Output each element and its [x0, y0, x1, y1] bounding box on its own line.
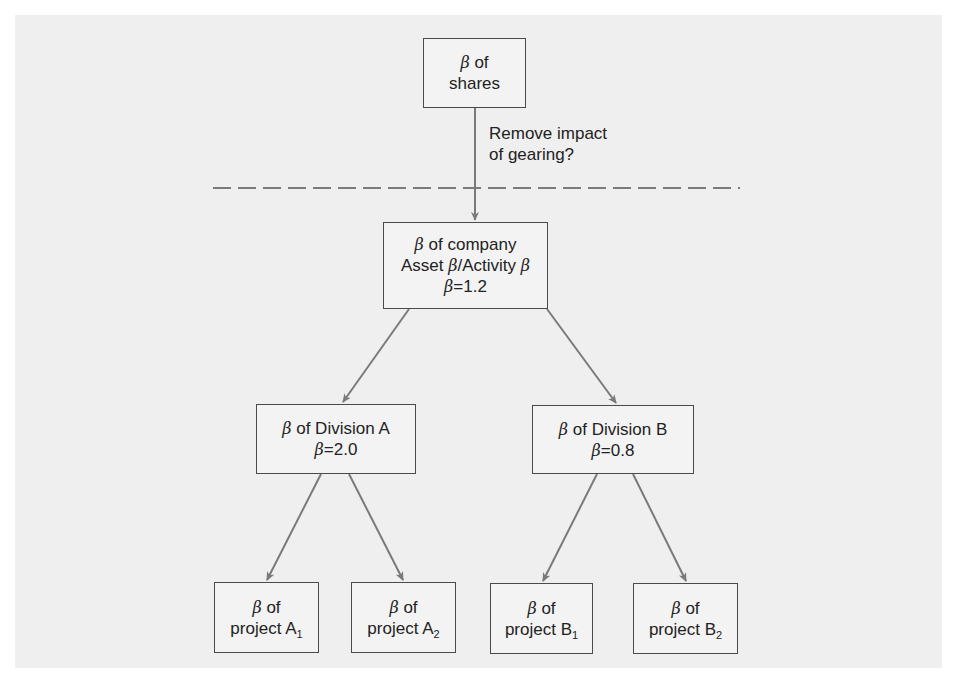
beta-symbol: β [521, 256, 530, 275]
node-text: of [681, 599, 700, 618]
node-text: of [537, 599, 556, 618]
arrow-division-b-to-project-b2 [633, 474, 686, 581]
node-line: β=2.0 [315, 439, 358, 460]
node-line: β of [527, 598, 555, 619]
subscript: 2 [716, 629, 722, 641]
beta-symbol: β [592, 441, 601, 460]
arrow-division-a-to-project-a1 [267, 474, 321, 580]
beta-symbol: β [559, 420, 568, 439]
edge-label-line: Remove impact [489, 123, 607, 144]
edge-label-line: of gearing? [489, 144, 607, 165]
node-line: β of [389, 597, 417, 618]
node-line: β of Division B [559, 419, 667, 440]
beta-symbol: β [415, 235, 424, 254]
node-text: of Division B [568, 420, 667, 439]
node-beta-of-company: β of company Asset β/Activity β β=1.2 [383, 222, 548, 309]
edge-label-remove-gearing: Remove impact of gearing? [489, 123, 607, 165]
beta-symbol: β [444, 277, 453, 296]
node-line: project A1 [230, 618, 302, 639]
node-line: β of [460, 52, 488, 73]
node-beta-of-project-b2: β of project B2 [633, 583, 738, 654]
node-beta-of-division-b: β of Division B β=0.8 [532, 405, 694, 474]
node-text: /Activity [457, 256, 520, 275]
node-line: Asset β/Activity β [401, 255, 530, 276]
beta-symbol: β [389, 598, 398, 617]
arrow-division-a-to-project-a2 [349, 474, 403, 580]
node-line: project B1 [505, 619, 578, 640]
node-beta-of-division-a: β of Division A β=2.0 [256, 404, 416, 474]
node-beta-of-project-a1: β of project A1 [214, 582, 319, 653]
node-text: project A [367, 619, 433, 638]
node-text: of [470, 53, 489, 72]
arrow-division-b-to-project-b1 [543, 474, 597, 581]
node-line: β of company [415, 234, 517, 255]
beta-value: =0.8 [601, 441, 635, 460]
beta-value: =1.2 [453, 277, 487, 296]
beta-value: =2.0 [324, 440, 358, 459]
node-text: shares [449, 74, 500, 93]
beta-symbol: β [252, 598, 261, 617]
beta-symbol: β [460, 53, 469, 72]
node-text: of [399, 598, 418, 617]
node-line: β of [252, 597, 280, 618]
node-text: of [262, 598, 281, 617]
subscript: 1 [572, 629, 578, 641]
node-text: of company [424, 235, 517, 254]
beta-symbol: β [671, 599, 680, 618]
node-line: β=1.2 [444, 276, 487, 297]
node-text: project B [649, 620, 716, 639]
node-text: project B [505, 620, 572, 639]
node-text: Asset [401, 256, 448, 275]
node-line: β=0.8 [592, 440, 635, 461]
node-line: shares [449, 73, 500, 94]
arrow-company-to-division-b [547, 309, 616, 403]
beta-symbol: β [527, 599, 536, 618]
node-text: of Division A [291, 419, 389, 438]
node-text: project A [230, 619, 296, 638]
node-beta-of-project-a2: β of project A2 [351, 582, 456, 653]
node-line: project A2 [367, 618, 439, 639]
node-beta-of-project-b1: β of project B1 [490, 583, 593, 654]
subscript: 1 [297, 628, 303, 640]
node-beta-of-shares: β of shares [423, 38, 526, 108]
beta-symbol: β [315, 440, 324, 459]
node-line: project B2 [649, 619, 722, 640]
node-line: β of [671, 598, 699, 619]
arrow-company-to-division-a [343, 309, 409, 402]
node-line: β of Division A [282, 418, 390, 439]
subscript: 2 [434, 628, 440, 640]
